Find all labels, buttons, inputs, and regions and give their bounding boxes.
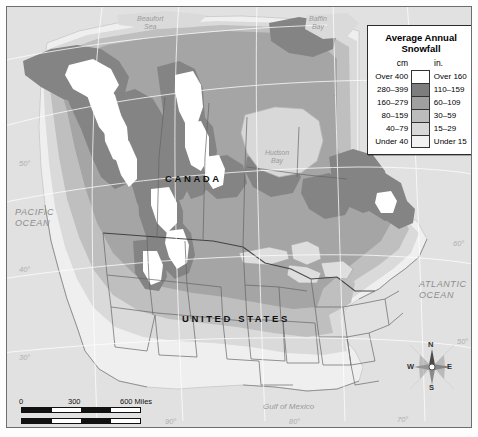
compass-west: W bbox=[407, 362, 414, 371]
scale-miles-600: 600 Miles bbox=[120, 397, 152, 406]
legend-row-cm: 80–159 bbox=[373, 109, 411, 122]
legend-row-in: Over 160 bbox=[430, 70, 469, 83]
legend-title: Average Annual Snowfall bbox=[373, 32, 469, 54]
legend-swatch bbox=[411, 70, 430, 83]
legend-unit-headers: cm in. bbox=[373, 58, 469, 68]
legend-row: 80–15930–59 bbox=[373, 109, 469, 122]
scale-bar-miles bbox=[21, 407, 141, 413]
legend-swatch bbox=[411, 109, 430, 122]
map-frame: CANADA UNITED STATES PACIFIC OCEAN ATLAN… bbox=[6, 6, 472, 428]
map-page: CANADA UNITED STATES PACIFIC OCEAN ATLAN… bbox=[0, 0, 478, 437]
legend-swatch bbox=[411, 135, 430, 148]
legend-swatch bbox=[411, 122, 430, 135]
legend-row: Over 400Over 160 bbox=[373, 70, 469, 83]
legend-row: 40–7915–29 bbox=[373, 122, 469, 135]
legend-row: 280–399110–159 bbox=[373, 83, 469, 96]
legend-row: 160–27960–109 bbox=[373, 96, 469, 109]
scale-bars: 0 300 600 Miles 0 300 600 Kilometers bbox=[21, 397, 196, 428]
legend-row-in: 15–29 bbox=[430, 122, 469, 135]
legend-row-cm: 280–399 bbox=[373, 83, 411, 96]
legend-row-in: Under 15 bbox=[430, 135, 469, 148]
legend-swatch bbox=[411, 96, 430, 109]
legend-unit-in: in. bbox=[431, 58, 467, 68]
scale-miles-0: 0 bbox=[19, 397, 23, 406]
scale-bar-kilometers bbox=[21, 418, 141, 424]
compass-south: S bbox=[429, 383, 434, 392]
compass-east: E bbox=[447, 362, 452, 371]
legend-row-cm: 40–79 bbox=[373, 122, 411, 135]
scale-km-300: 300 bbox=[68, 425, 81, 428]
scale-km-600: 600 Kilometers bbox=[120, 425, 170, 428]
legend-rows: Over 400Over 160280–399110–159160–27960–… bbox=[373, 70, 469, 148]
legend-row-cm: 160–279 bbox=[373, 96, 411, 109]
legend-title-line2: Snowfall bbox=[373, 43, 469, 54]
legend-row-in: 110–159 bbox=[430, 83, 469, 96]
scale-miles-300: 300 bbox=[68, 397, 81, 406]
scale-km-0: 0 bbox=[19, 425, 23, 428]
legend-row-in: 60–109 bbox=[430, 96, 469, 109]
compass-north: N bbox=[428, 340, 433, 349]
legend-unit-cm: cm bbox=[375, 58, 410, 68]
legend-row-in: 30–59 bbox=[430, 109, 469, 122]
scale-km-ticks: 0 300 600 Kilometers bbox=[21, 425, 196, 428]
compass-rose: N E S W bbox=[406, 341, 458, 393]
legend-row: Under 40Under 15 bbox=[373, 135, 469, 148]
legend-row-cm: Under 40 bbox=[373, 135, 411, 148]
map-legend: Average Annual Snowfall cm in. Over 400O… bbox=[367, 25, 472, 155]
legend-row-cm: Over 400 bbox=[373, 70, 411, 83]
scale-miles-ticks: 0 300 600 Miles bbox=[21, 397, 196, 406]
legend-swatch bbox=[411, 83, 430, 96]
legend-title-line1: Average Annual bbox=[373, 32, 469, 43]
